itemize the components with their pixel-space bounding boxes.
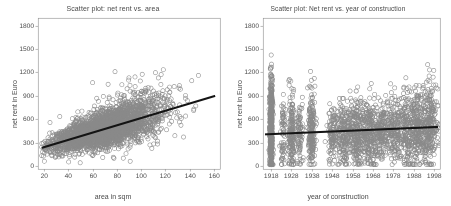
x-axis-label-right: year of construction <box>225 193 451 200</box>
chart-panel-net-rent-vs-area: Scatter plot: net rent vs. area area in … <box>0 0 226 206</box>
scatter-canvas-net-rent-vs-year <box>225 0 451 206</box>
x-axis-label-left: area in sqm <box>0 193 226 200</box>
scatter-canvas-net-rent-vs-area <box>0 0 226 206</box>
chart-panel-net-rent-vs-year: Scatter plot: Net rent vs. year of const… <box>225 0 451 206</box>
y-axis-label-right: net rent in Euro <box>236 80 243 128</box>
chart-title-left: Scatter plot: net rent vs. area <box>0 5 226 12</box>
y-axis-label-left: net rent in Euro <box>11 80 18 128</box>
scatter-plot-figure: Scatter plot: net rent vs. area area in … <box>0 0 451 206</box>
chart-title-right: Scatter plot: Net rent vs. year of const… <box>225 5 451 12</box>
